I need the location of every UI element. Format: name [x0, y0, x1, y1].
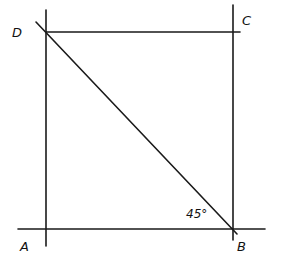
vertex-label-C: C [242, 13, 252, 28]
angle-label-45: 45° [186, 207, 207, 221]
vertex-label-A: A [19, 239, 29, 254]
diagonal-DB [36, 22, 237, 234]
vertex-label-B: B [237, 239, 246, 254]
vertex-label-D: D [12, 25, 22, 40]
square-diagram: D C A B 45° [0, 0, 286, 268]
